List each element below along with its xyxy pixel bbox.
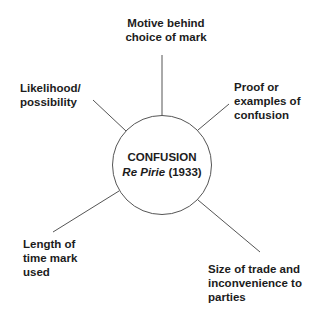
connector-length	[53, 191, 119, 232]
factor-motive: Motive behind choice of mark	[120, 16, 212, 44]
central-title: CONFUSION	[112, 150, 212, 165]
case-year: (1933)	[168, 166, 201, 178]
factor-length: Length of time mark used	[23, 237, 77, 279]
case-name: Re Pirie	[122, 166, 165, 178]
factor-size: Size of trade and inconvenience to parti…	[208, 262, 302, 304]
connector-proof	[198, 104, 229, 130]
central-concept: CONFUSION Re Pirie (1933)	[112, 150, 212, 180]
factor-proof: Proof or examples of confusion	[234, 80, 300, 122]
connector-likelihood	[93, 100, 126, 131]
factor-likelihood: Likelihood/ possibility	[20, 81, 81, 109]
connector-size	[198, 200, 260, 252]
central-case: Re Pirie (1933)	[112, 165, 212, 180]
